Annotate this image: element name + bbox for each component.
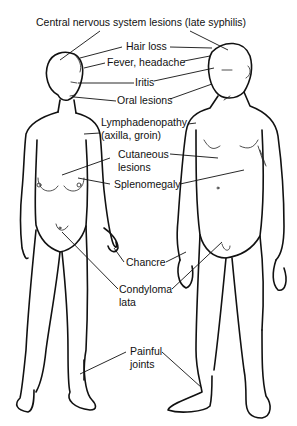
label-condyloma-lata: lata xyxy=(119,296,136,308)
label-lymphadenopathy: Lymphadenopathy xyxy=(101,116,187,128)
label-painful-joints: joints xyxy=(130,358,155,370)
leader-cns-male xyxy=(190,31,228,50)
leader-spleno-male xyxy=(180,170,244,184)
leader-oral-male xyxy=(170,84,212,99)
male-figure xyxy=(168,43,286,418)
label-oral-lesions: Oral lesions xyxy=(117,94,172,106)
leader-chancre-male xyxy=(166,252,186,262)
leader-iritis-male xyxy=(154,68,214,81)
label-painful: Painful xyxy=(130,345,162,357)
label-cutaneous: Cutaneous xyxy=(118,148,169,160)
female-figure xyxy=(17,52,118,412)
leader-chancre-female xyxy=(114,248,124,262)
leader-cns-female xyxy=(60,31,100,60)
leader-fever-female xyxy=(84,63,105,68)
label-cns-lesions: Central nervous system lesions (late syp… xyxy=(36,16,246,28)
leader-spleno-female xyxy=(78,178,110,184)
label-cutaneous-lesions: lesions xyxy=(118,161,151,173)
syphilis-manifestations-diagram: Central nervous system lesions (late syp… xyxy=(0,0,297,426)
leader-condyloma-male xyxy=(172,242,222,289)
label-iritis: Iritis xyxy=(135,76,154,88)
label-condyloma: Condyloma xyxy=(119,283,172,295)
label-lymphadenopathy-sites: (axilla, groin) xyxy=(101,129,161,141)
leader-cutaneous-male xyxy=(170,154,218,158)
label-splenomegaly: Splenomegaly xyxy=(114,178,181,190)
leader-hair-loss-male xyxy=(170,47,212,48)
label-fever-headache: Fever, headache xyxy=(107,56,185,68)
leader-joints-female xyxy=(80,352,126,374)
leader-oral-female xyxy=(74,97,116,101)
leader-lymph-female xyxy=(84,133,100,134)
leader-fever-male xyxy=(184,56,210,61)
label-hair-loss: Hair loss xyxy=(126,40,167,52)
leader-condyloma-female xyxy=(62,232,118,289)
label-chancre: Chancre xyxy=(126,256,166,268)
